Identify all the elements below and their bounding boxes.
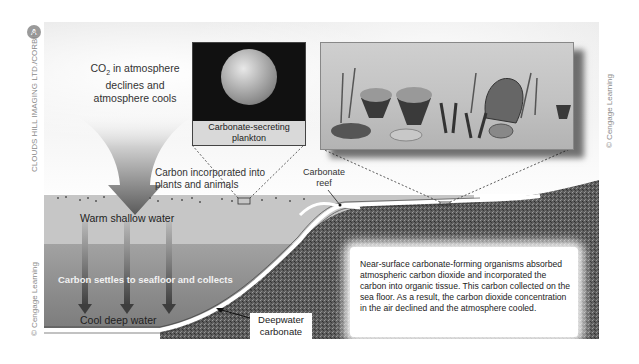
plankton-caption: Carbonate-secreting plankton bbox=[193, 121, 305, 145]
explanation-textbox: Near-surface carbonate-forming organisms… bbox=[350, 247, 578, 337]
settling-arrows bbox=[78, 222, 176, 314]
co2-declines-label: CO2 in atmosphere declines and atmospher… bbox=[75, 62, 195, 105]
co2-funnel-arrow bbox=[64, 110, 206, 215]
coccolithophore-image bbox=[221, 49, 277, 105]
deepwater-carbonate-label: Deepwater carbonate bbox=[250, 313, 312, 339]
plankton-zoom-box bbox=[238, 198, 250, 204]
carbonate-reef-label: Carbonate reef bbox=[303, 167, 345, 189]
warm-shallow-water-label: Warm shallow water bbox=[80, 212, 174, 224]
plankton-dots bbox=[57, 196, 305, 203]
reef-organisms-illustration bbox=[320, 42, 574, 150]
cool-deep-water-label: Cool deep water bbox=[80, 314, 156, 326]
carbon-incorporated-label: Carbon incorporated into plants and anim… bbox=[155, 167, 265, 191]
reef-organisms-art bbox=[321, 43, 573, 149]
plankton-inset: Carbonate-secreting plankton bbox=[192, 42, 306, 146]
carbon-settles-label: Carbon settles to seafloor and collects bbox=[58, 274, 233, 285]
